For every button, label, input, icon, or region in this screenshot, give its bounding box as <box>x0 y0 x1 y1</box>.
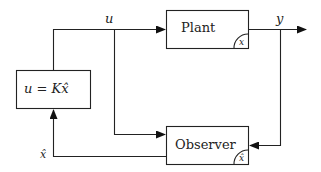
observer-state-label: x̂ <box>239 153 244 163</box>
controller-label: u = Kx̂ <box>24 81 69 96</box>
plant-label: Plant <box>181 20 215 35</box>
xhat-signal-label: x̂ <box>40 148 46 161</box>
u-to-plant <box>54 30 166 71</box>
observer-label: Observer <box>175 137 236 152</box>
xhat-feedback <box>54 110 167 157</box>
block-diagram: Plant x Observer x̂ u = Kx̂ u y x̂ <box>0 0 321 172</box>
y-signal-label: y <box>276 11 283 26</box>
u-to-observer <box>115 30 166 135</box>
y-to-observer <box>250 30 281 146</box>
u-signal-label: u <box>105 11 113 26</box>
plant-state-label: x <box>239 37 244 47</box>
